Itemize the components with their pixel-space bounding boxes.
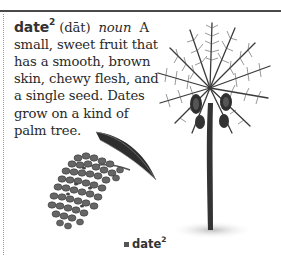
homograph-number: 2 <box>49 17 55 27</box>
palm-tree-illustration <box>150 18 281 248</box>
top-rule <box>0 10 281 12</box>
square-bullet-icon <box>124 242 129 247</box>
illustration-caption: date2 <box>124 236 167 251</box>
pronunciation: (dāt) <box>59 20 90 35</box>
dictionary-entry: date2 (dāt) noun A small, sweet fruit th… <box>14 15 162 139</box>
part-of-speech: noun <box>98 20 131 35</box>
definition: A small, sweet fruit that has a smooth, … <box>14 20 159 138</box>
caption-label: date2 <box>132 236 167 251</box>
date-cluster-illustration <box>20 128 160 233</box>
margin-dotted-border <box>3 14 4 255</box>
headword: date2 <box>14 19 55 35</box>
